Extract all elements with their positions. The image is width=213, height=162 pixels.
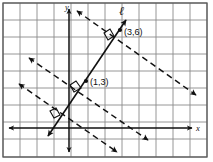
x-axis-label: x: [195, 123, 200, 133]
y-axis-label: y: [64, 2, 69, 12]
point-label-3-6: (3,6): [124, 27, 143, 37]
point-dot-1-3: [84, 79, 88, 83]
coordinate-geometry-figure: (3,6) (1,3) x y ℓ: [0, 0, 213, 162]
graph-canvas: (3,6) (1,3) x y ℓ: [0, 0, 213, 162]
point-label-1-3: (1,3): [90, 77, 109, 87]
line-l-label: ℓ: [119, 4, 124, 18]
point-dot-3-6: [118, 28, 122, 32]
